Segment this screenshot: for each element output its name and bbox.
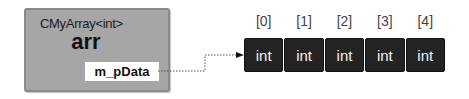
index-label: [1] (284, 13, 323, 29)
index-labels: [0] [1] [2] [3] [4] (244, 13, 445, 29)
array-cell: int (244, 38, 283, 72)
array-cells: int int int int int (244, 38, 445, 72)
array-cell: int (284, 38, 323, 72)
index-label: [0] (244, 13, 283, 29)
index-label: [4] (406, 13, 445, 29)
index-label: [3] (365, 13, 404, 29)
arrowhead-icon (236, 52, 244, 58)
array-cell: int (325, 38, 364, 72)
array-cell: int (406, 38, 445, 72)
array-cell: int (365, 38, 404, 72)
index-label: [2] (325, 13, 364, 29)
